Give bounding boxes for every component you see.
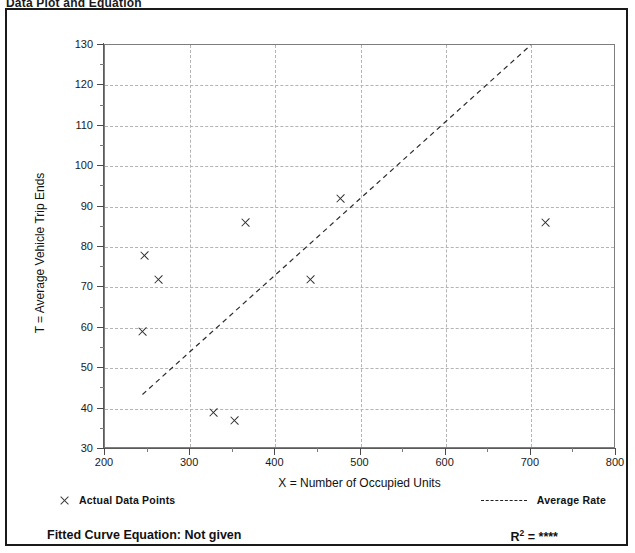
figure-border: 30405060708090100110120130 2003004005006… [5, 8, 628, 546]
data-point [137, 326, 148, 337]
r-squared-prefix: R [511, 530, 520, 544]
data-point [153, 274, 164, 285]
y-tick-label: 100 [59, 159, 93, 171]
y-tick-label: 30 [59, 442, 93, 454]
dashed-line-icon [481, 500, 527, 501]
y-tick [97, 448, 104, 449]
y-tick [97, 327, 104, 328]
x-tick [615, 448, 616, 455]
r-squared-suffix: = **** [524, 530, 558, 544]
x-tick [360, 448, 361, 455]
y-tick-label: 70 [59, 280, 93, 292]
data-point [140, 250, 151, 261]
y-tick [97, 408, 104, 409]
y-tick [97, 44, 104, 45]
data-point [229, 415, 240, 426]
x-tick [530, 448, 531, 455]
y-tick [97, 286, 104, 287]
scan-title: Data Plot and Equation [6, 0, 306, 8]
y-tick-label: 110 [59, 119, 93, 131]
y-tick [97, 246, 104, 247]
data-point [240, 217, 251, 228]
y-tick-label-group: 30405060708090100110120130 [53, 10, 93, 553]
y-tick-label: 90 [59, 200, 93, 212]
y-tick [97, 206, 104, 207]
footer: Fitted Curve Equation: Not given R2 = **… [7, 528, 630, 552]
x-tick-label: 800 [606, 456, 624, 468]
y-tick [97, 165, 104, 166]
y-tick [97, 367, 104, 368]
legend-item-actual-points: Actual Data Points [59, 494, 175, 506]
average-rate-line [105, 45, 616, 449]
fitted-curve-equation: Fitted Curve Equation: Not given [47, 528, 241, 542]
x-tick [189, 448, 190, 455]
y-tick [97, 84, 104, 85]
x-tick-label: 600 [435, 456, 453, 468]
x-tick-label: 400 [265, 456, 283, 468]
plot-area [104, 44, 615, 448]
x-axis-title: X = Number of Occupied Units [104, 476, 615, 490]
legend-label-average-rate: Average Rate [537, 494, 606, 506]
y-tick-label: 50 [59, 361, 93, 373]
data-point [306, 274, 317, 285]
data-point [335, 193, 346, 204]
legend: Actual Data Points Average Rate [7, 494, 630, 520]
x-tick-label: 200 [95, 456, 113, 468]
y-tick-label: 80 [59, 240, 93, 252]
x-tick-label: 700 [521, 456, 539, 468]
x-tick [274, 448, 275, 455]
x-tick [445, 448, 446, 455]
y-tick-label: 130 [59, 38, 93, 50]
data-point [209, 407, 220, 418]
x-marker-icon [59, 495, 70, 506]
y-tick-label: 120 [59, 78, 93, 90]
x-tick [104, 448, 105, 455]
y-tick [97, 125, 104, 126]
y-tick-label: 40 [59, 402, 93, 414]
figure-root: Data Plot and Equation 30405060708090100… [0, 0, 635, 553]
y-axis-title: T = Average Vehicle Trip Ends [33, 138, 47, 368]
x-tick-label: 500 [350, 456, 368, 468]
legend-item-average-rate: Average Rate [481, 494, 606, 506]
x-tick-label: 300 [180, 456, 198, 468]
data-point [540, 217, 551, 228]
r-squared-value: R2 = **** [511, 528, 558, 544]
y-tick-label: 60 [59, 321, 93, 333]
trend-line [142, 45, 530, 394]
legend-label-actual-points: Actual Data Points [79, 494, 175, 506]
